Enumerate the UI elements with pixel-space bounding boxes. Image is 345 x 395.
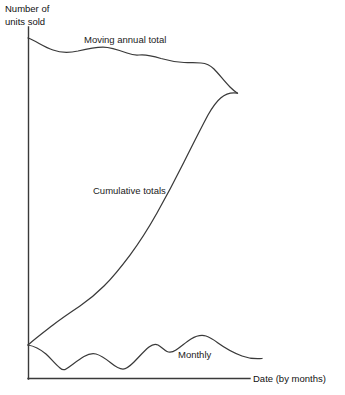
series-label-cumulative-totals: Cumulative totals	[93, 185, 166, 196]
series-line-cumulative-totals	[28, 93, 238, 345]
x-axis-title: Date (by months)	[253, 373, 326, 384]
chart-container: Number of units sold Date (by months) Mo…	[0, 0, 345, 395]
line-chart-figure: Number of units sold Date (by months) Mo…	[0, 0, 345, 395]
series-label-monthly: Monthly	[178, 349, 212, 360]
y-axis-title-line1: Number of	[5, 3, 50, 14]
y-axis-title-line2: units sold	[5, 16, 45, 27]
series-label-moving-annual-total: Moving annual total	[84, 34, 166, 45]
series-line-monthly	[28, 335, 262, 369]
series-line-moving-annual-total	[28, 38, 238, 93]
